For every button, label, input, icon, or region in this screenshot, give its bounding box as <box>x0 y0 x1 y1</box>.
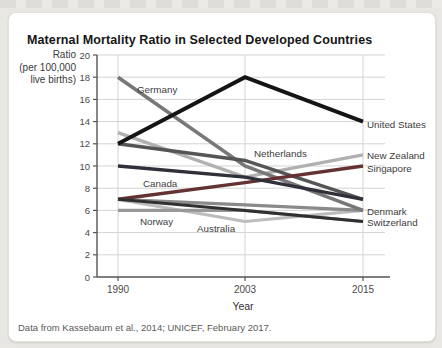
country-label-norway: Norway <box>140 216 173 227</box>
y-axis-tick-label: 4 <box>66 227 90 238</box>
country-label-canada: Canada <box>143 178 177 189</box>
y-axis-tick-label: 12 <box>66 138 90 149</box>
country-label-singapore: Singapore <box>367 163 412 174</box>
y-axis-tick-label: 18 <box>66 72 90 83</box>
y-axis-tick-label: 8 <box>66 183 90 194</box>
x-axis-tick-label: 1990 <box>96 284 140 295</box>
x-axis-title: Year <box>203 300 283 312</box>
country-label-denmark: Denmark <box>367 206 407 217</box>
y-axis-tick-label: 20 <box>66 50 90 61</box>
country-label-united-states: United States <box>367 119 426 130</box>
source-note: Data from Kassebaum et al., 2014; UNICEF… <box>18 322 271 333</box>
country-label-netherlands: Netherlands <box>254 148 307 159</box>
x-axis-tick-label: 2003 <box>223 284 267 295</box>
y-axis-tick-label: 6 <box>66 205 90 216</box>
y-axis-tick-label: 16 <box>66 94 90 105</box>
y-axis-tick-label: 2 <box>66 249 90 260</box>
y-axis-tick-label: 10 <box>66 161 90 172</box>
country-label-australia: Australia <box>197 223 235 234</box>
x-axis-tick-label: 2015 <box>341 284 385 295</box>
country-label-switzerland: Switzerland <box>367 217 418 228</box>
chart-title: Maternal Mortality Ratio in Selected Dev… <box>27 33 372 47</box>
cropped-content-above <box>0 0 442 8</box>
country-label-new-zealand: New Zealand <box>367 150 425 161</box>
y-axis-tick-label: 14 <box>66 116 90 127</box>
y-axis-tick-label: 0 <box>66 272 90 283</box>
country-label-germany: Germany <box>137 84 177 95</box>
